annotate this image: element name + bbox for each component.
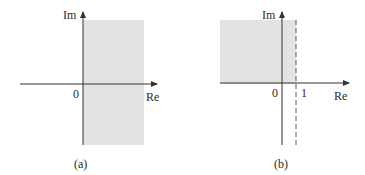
caption-a: (a) — [74, 157, 87, 171]
shaded-region-b — [220, 20, 296, 84]
panel-b: Im Re 0 1 (b) — [220, 8, 349, 171]
real-axis-label-a: Re — [146, 90, 159, 104]
imag-axis-label-a: Im — [63, 8, 77, 22]
imag-axis-label-b: Im — [262, 8, 276, 22]
complex-plane-figure: Im Re 0 (a) Im Re 0 1 (b) — [0, 0, 365, 175]
real-axis-label-b: Re — [334, 89, 347, 103]
shaded-region-a — [83, 20, 144, 145]
caption-b: (b) — [274, 157, 288, 171]
origin-label-a: 0 — [73, 87, 79, 101]
panel-a: Im Re 0 (a) — [20, 8, 159, 171]
origin-label-b: 0 — [272, 86, 278, 100]
tick-label-1: 1 — [301, 86, 307, 100]
